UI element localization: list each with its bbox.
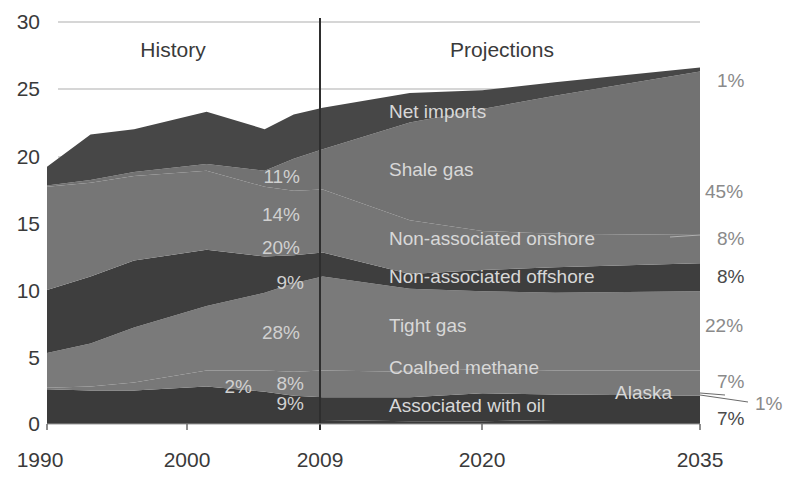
pct-hist-shale: 14% [262,204,300,225]
x-axis-labels: 1990 2000 2009 2020 2035 [17,448,724,471]
label-coalbed-methane: Coalbed methane [389,357,539,378]
y-tick-label: 25 [17,77,40,100]
x-tick-label: 2020 [459,448,506,471]
pct-proj-alaska: 1% [755,393,783,414]
x-tick-label: 2009 [297,448,344,471]
y-axis-labels: 0 5 10 15 20 25 30 [17,10,40,435]
y-tick-label: 0 [28,412,40,435]
label-offshore: Non-associated offshore [389,266,595,287]
x-tick-label: 2000 [164,448,211,471]
stacked-areas [47,68,700,424]
label-net-imports: Net imports [389,101,486,122]
y-tick-label: 5 [28,346,40,369]
pct-proj-coalbed: 7% [717,371,745,392]
label-tight-gas: Tight gas [389,315,466,336]
pct-proj-associated: 7% [717,408,745,429]
pct-proj-onshore: 8% [717,228,745,249]
pct-proj-tight: 22% [705,315,743,336]
pct-hist-onshore: 20% [262,237,300,258]
y-tick-label: 10 [17,279,40,302]
pct-hist-net-imports: 11% [263,166,300,187]
pct-proj-shale: 45% [705,181,743,202]
history-label: History [140,38,206,61]
pct-hist-coalbed: 8% [277,373,305,394]
x-tick-label: 1990 [17,448,64,471]
pct-proj-net-imports: 1% [717,70,745,91]
label-associated-with-oil: Associated with oil [389,395,545,416]
alaska-leader-line [700,395,748,402]
label-shale-gas: Shale gas [389,159,474,180]
natural-gas-production-area-chart: 0 5 10 15 20 25 30 1990 2000 2009 2020 2… [0,0,795,487]
pct-hist-associated: 9% [277,393,305,414]
pct-proj-offshore: 8% [717,266,745,287]
pct-hist-offshore: 9% [277,272,305,293]
label-alaska: Alaska [615,382,672,403]
y-tick-label: 15 [17,212,40,235]
y-tick-label: 20 [17,145,40,168]
projections-label: Projections [450,38,554,61]
x-tick-label: 2035 [677,448,724,471]
coalbed-leader-line [700,393,725,395]
pct-hist-tight: 28% [262,322,300,343]
label-onshore: Non-associated onshore [389,228,595,249]
y-tick-label: 30 [17,10,40,33]
pct-hist-alaska: 2% [225,376,253,397]
